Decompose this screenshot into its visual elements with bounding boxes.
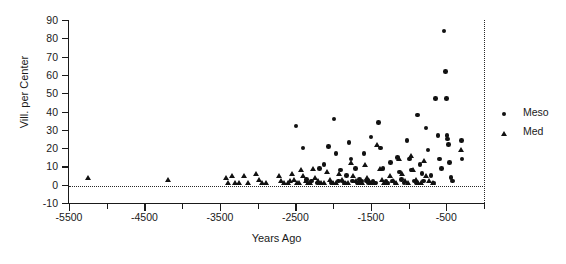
x-axis-title: Years Ago — [69, 232, 484, 244]
data-point-meso — [362, 151, 367, 156]
x-tick-minor — [409, 204, 410, 209]
data-point-meso — [317, 166, 322, 171]
data-point-meso — [437, 157, 442, 162]
y-tick-label: 70 — [0, 52, 58, 63]
data-point-meso — [426, 148, 431, 153]
data-point-meso — [388, 160, 393, 165]
data-point-med — [377, 166, 383, 171]
y-tick — [62, 148, 68, 149]
y-tick — [62, 75, 68, 76]
data-point-med — [253, 171, 259, 176]
data-point-med — [396, 156, 402, 161]
data-point-med — [348, 160, 354, 165]
y-tick — [62, 130, 68, 131]
data-point-meso — [301, 146, 306, 151]
data-point-med — [350, 173, 356, 178]
data-point-meso — [447, 160, 452, 165]
data-point-med — [423, 173, 429, 178]
zero-reference-line-vertical — [484, 20, 485, 205]
x-tick-major — [220, 204, 221, 211]
data-point-meso — [444, 96, 449, 101]
data-point-meso — [424, 126, 429, 131]
data-point-meso — [429, 173, 434, 178]
x-tick-label: -500 — [416, 212, 476, 223]
x-tick-major — [446, 204, 447, 211]
x-tick-label: -1500 — [341, 212, 401, 223]
data-point-med — [374, 142, 380, 147]
legend-label: Meso — [523, 106, 549, 118]
data-point-meso — [334, 151, 339, 156]
x-tick-major — [69, 204, 70, 211]
x-tick-label: -4500 — [114, 212, 174, 223]
data-point-med — [300, 173, 306, 178]
data-point-meso — [450, 179, 455, 184]
data-point-med — [263, 180, 269, 185]
x-tick-minor — [107, 204, 108, 209]
data-point-med — [418, 180, 424, 185]
y-tick-label: 50 — [0, 88, 58, 99]
data-point-med — [387, 173, 393, 178]
data-point-med — [165, 177, 171, 182]
data-point-med — [289, 171, 295, 176]
x-tick-minor — [258, 204, 259, 209]
data-point-med — [399, 171, 405, 176]
x-tick-label: -5500 — [39, 212, 99, 223]
data-point-med — [362, 162, 368, 167]
data-point-med — [85, 175, 91, 180]
x-tick-major — [295, 204, 296, 211]
data-point-med — [345, 180, 351, 185]
data-point-med — [371, 180, 377, 185]
y-tick — [62, 38, 68, 39]
data-point-med — [276, 173, 282, 178]
data-point-meso — [439, 166, 444, 171]
marker-glyph — [502, 112, 507, 117]
y-tick-label: 0 — [0, 180, 58, 191]
plot-area — [69, 20, 484, 203]
y-tick-labels: -100102030405060708090 — [0, 0, 58, 264]
data-point-med — [430, 180, 436, 185]
y-tick — [62, 166, 68, 167]
y-tick-label: 80 — [0, 33, 58, 44]
y-tick — [62, 185, 68, 186]
data-point-med — [458, 147, 464, 152]
data-point-med — [410, 167, 416, 172]
data-point-meso — [369, 135, 374, 140]
y-tick — [62, 20, 68, 21]
data-point-med — [298, 167, 304, 172]
data-point-meso — [322, 162, 327, 167]
y-tick — [62, 57, 68, 58]
data-point-med — [421, 158, 427, 163]
triangle-marker-icon — [500, 129, 508, 137]
data-point-med — [296, 180, 302, 185]
data-point-med — [236, 180, 242, 185]
data-point-meso — [332, 117, 337, 122]
x-tick-label: -3500 — [190, 212, 250, 223]
data-point-meso — [347, 140, 352, 145]
data-point-meso — [446, 142, 451, 147]
y-tick-label: 60 — [0, 70, 58, 81]
circle-marker-icon — [500, 110, 508, 118]
scatter-chart-figure: Vill. per Center -100102030405060708090 … — [0, 0, 566, 264]
data-point-med — [225, 180, 231, 185]
data-point-med — [241, 173, 247, 178]
y-tick-label: 90 — [0, 15, 58, 26]
y-tick-label: 10 — [0, 161, 58, 172]
y-tick-label: -10 — [0, 198, 58, 209]
marker-glyph — [501, 131, 507, 136]
data-point-meso — [344, 173, 349, 178]
data-point-meso — [415, 113, 420, 118]
y-tick-label: 20 — [0, 143, 58, 154]
data-point-med — [405, 180, 411, 185]
data-point-meso — [460, 157, 465, 162]
y-tick — [62, 203, 68, 204]
data-point-med — [336, 171, 342, 176]
data-point-meso — [442, 29, 447, 34]
data-point-med — [229, 173, 235, 178]
x-tick-minor — [333, 204, 334, 209]
data-point-med — [393, 180, 399, 185]
data-point-meso — [376, 120, 381, 125]
data-point-meso — [353, 166, 358, 171]
y-tick — [62, 112, 68, 113]
y-tick — [62, 93, 68, 94]
y-tick-label: 30 — [0, 125, 58, 136]
